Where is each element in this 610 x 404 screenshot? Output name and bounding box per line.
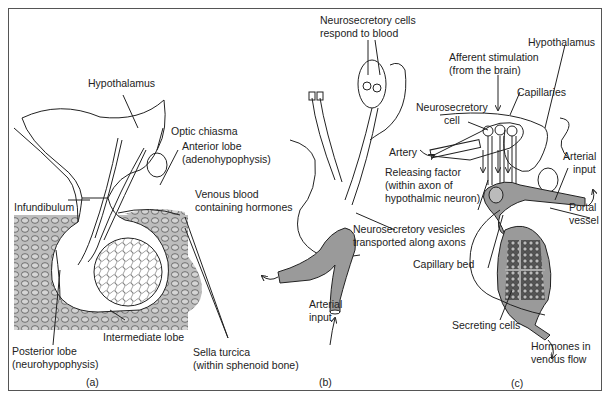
label-arterial-input-c: Arterial (563, 150, 596, 163)
label-venous-flow: venous flow (531, 353, 586, 366)
label-within-axon: (within axon of (385, 179, 453, 192)
label-artery: Artery (389, 146, 417, 159)
label-adenohypophysis: (adenohypophysis) (182, 153, 271, 166)
label-neurohypophysis: (neurohypophysis) (12, 358, 98, 371)
label-hormones-in: Hormones in (531, 340, 591, 353)
label-hypothalamus-a: Hypothalamus (88, 77, 155, 90)
caption-a: (a) (86, 376, 99, 389)
label-cell: cell (444, 114, 460, 127)
label-infundibulum: Infundibulum (14, 201, 74, 214)
label-posterior-lobe: Posterior lobe (12, 345, 77, 358)
label-capillary-bed: Capillary bed (413, 258, 474, 271)
label-arterial-input-b: Arterial (309, 298, 342, 311)
label-vessel: vessel (569, 214, 599, 227)
label-releasing-factor: Releasing factor (385, 166, 461, 179)
label-hypothalmic-neuron: hypothalmic neuron) (385, 192, 480, 205)
label-containing-hormones: containing hormones (195, 201, 292, 214)
label-neurosecretory-cells: Neurosecretory cells (320, 14, 416, 27)
label-venous-blood: Venous blood (195, 188, 259, 201)
label-input-b: input (309, 311, 332, 324)
caption-c: (c) (511, 377, 523, 390)
label-respond-to-blood: respond to blood (320, 27, 398, 40)
label-anterior-lobe: Anterior lobe (182, 140, 242, 153)
label-secreting-cells: Secreting cells (452, 319, 520, 332)
label-from-the-brain: (from the brain) (449, 64, 521, 77)
label-neurosecretory-vesicles: Neurosecretory vesicles (353, 223, 465, 236)
label-portal: Portal (569, 201, 596, 214)
label-afferent-stimulation: Afferent stimulation (449, 51, 539, 64)
label-optic-chiasma: Optic chiasma (171, 125, 238, 138)
label-intermediate-lobe: Intermediate lobe (103, 331, 184, 344)
label-input-c: input (573, 163, 596, 176)
label-sphenoid-bone: (within sphenoid bone) (193, 359, 299, 372)
label-neurosecretory-cell: Neurosecretory (416, 101, 488, 114)
caption-b: (b) (319, 376, 332, 389)
label-capillaries: Capillaries (517, 86, 566, 99)
label-hypothalamus-c: Hypothalamus (528, 36, 595, 49)
label-sella-turcica: Sella turcica (193, 346, 250, 359)
label-transported-along-axons: transported along axons (353, 236, 466, 249)
